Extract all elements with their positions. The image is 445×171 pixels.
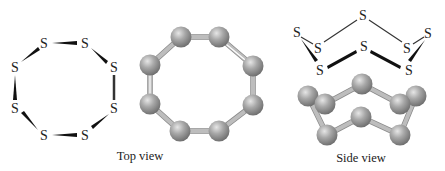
sulfur-atom-label: S (81, 36, 89, 51)
bond-rods (150, 37, 253, 131)
bond-line (369, 20, 402, 42)
sulfur-atom-label: S (424, 26, 432, 41)
sulfur-atom-label: S (40, 36, 48, 51)
side-view-structural-formula: S S S S S S S S (293, 8, 432, 78)
side-view-caption: Side view (336, 151, 386, 165)
sulfur-atom-label: S (11, 60, 19, 75)
bond-wedge (327, 50, 357, 69)
sulfur-atom-ball (170, 121, 191, 142)
sulfur-atom-label: S (81, 128, 89, 143)
sulfur-atom-ball (171, 27, 192, 48)
sulfur-atom-ball (209, 121, 230, 142)
sulfur-atom-ball (243, 56, 264, 77)
top-view-ball-and-stick-model (140, 27, 264, 142)
sulfur-atom-label: S (11, 101, 19, 116)
sulfur-atom-ball (209, 27, 230, 48)
sulfur-atom-label: S (314, 41, 322, 56)
sulfur-atom-label: S (405, 63, 413, 78)
sulfur-atom-label: S (293, 25, 301, 40)
sulfur-atom-ball (243, 95, 264, 116)
sulfur-atom-label: S (110, 101, 118, 116)
bond-wedge (21, 111, 38, 130)
sulfur-atom-ball (315, 94, 336, 115)
top-view-structural-formula: S S S S S S S S (11, 36, 118, 143)
sulfur-atom-ball (390, 94, 411, 115)
bond-wedge (21, 47, 40, 62)
top-view-caption: Top view (117, 149, 164, 163)
bond-wedge (13, 75, 17, 100)
bond-wedge (370, 50, 401, 69)
sulfur-atom-label: S (403, 41, 411, 56)
bond-line (413, 37, 424, 44)
bond-wedge (52, 133, 77, 137)
sulfur-atom-ball (351, 107, 372, 128)
sulfur-atom-ball (390, 125, 411, 146)
sulfur-atom-label: S (316, 63, 324, 78)
sulfur-atom-ball (352, 74, 373, 95)
sulfur-atom-label: S (40, 128, 48, 143)
sulfur-atom-label: S (110, 60, 118, 75)
sulfur-atom-ball (317, 125, 338, 146)
sulfur-atom-label: S (360, 39, 368, 54)
bond-line (301, 37, 313, 44)
bond-wedge (52, 41, 77, 45)
sulfur-atom-ball (140, 94, 161, 115)
sulfur-atom-label: S (359, 8, 367, 23)
sulfur-atom-ball (140, 55, 161, 76)
bond-wedge (91, 114, 109, 129)
s8-ring-diagram: S S S S S S S S Top view (0, 0, 445, 171)
side-view-ball-and-stick-model (298, 74, 427, 146)
bond-line (324, 20, 357, 42)
bond-wedge (91, 48, 108, 64)
